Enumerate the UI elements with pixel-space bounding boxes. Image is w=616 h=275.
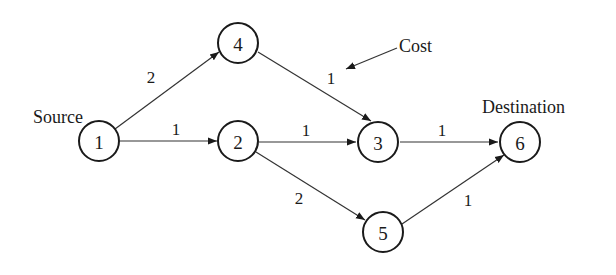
cost-label-3-6: 1 xyxy=(438,121,447,140)
node-label: 4 xyxy=(233,34,243,55)
cost-annotation: Cost xyxy=(399,36,432,56)
node-label: 6 xyxy=(515,133,525,154)
node-1: 1 xyxy=(79,121,119,161)
edge-5-6 xyxy=(402,155,504,224)
edge-2-5 xyxy=(256,152,365,220)
cost-label-5-6: 1 xyxy=(464,191,473,210)
cost-label-4-3: 1 xyxy=(327,69,336,88)
node-4: 4 xyxy=(218,23,258,63)
edge-1-4 xyxy=(115,52,219,129)
edge-4-3 xyxy=(258,52,371,121)
node-label: 2 xyxy=(233,132,243,153)
node-6: 6 xyxy=(500,122,540,162)
edge-cost-labels: 2 1 1 1 2 1 1 xyxy=(147,68,473,210)
node-label: 5 xyxy=(378,223,388,244)
cost-label-1-2: 1 xyxy=(172,120,181,139)
destination-annotation: Destination xyxy=(482,97,565,117)
node-5: 5 xyxy=(363,212,403,252)
network-graph: 2 1 1 1 2 1 1 1 2 3 4 5 6 Source Destina… xyxy=(0,0,616,275)
node-2: 2 xyxy=(218,121,258,161)
cost-label-2-3: 1 xyxy=(302,121,311,140)
node-3: 3 xyxy=(358,122,398,162)
source-annotation: Source xyxy=(33,107,83,127)
cost-label-1-4: 2 xyxy=(147,68,156,87)
cost-label-2-5: 2 xyxy=(295,189,304,208)
cost-annotation-arrow xyxy=(346,48,397,69)
node-label: 3 xyxy=(373,133,383,154)
node-label: 1 xyxy=(94,132,104,153)
